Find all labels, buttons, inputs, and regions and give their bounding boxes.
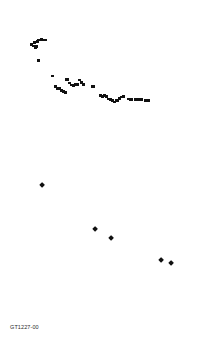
data-point-marker xyxy=(140,98,143,101)
scientific-figure: (a) Immobile element ratio cm 0 1 2 3 4 … xyxy=(0,0,217,352)
panel-a-chart: (a) Immobile element ratio cm 0 1 2 3 4 … xyxy=(0,0,217,160)
data-point-marker xyxy=(35,45,38,48)
data-point-marker xyxy=(168,260,174,266)
panel-a-data-points xyxy=(0,0,217,160)
figure-code: GT1227-00 xyxy=(10,324,39,330)
data-point-marker xyxy=(65,78,68,81)
data-point-marker xyxy=(44,39,47,42)
data-point-marker xyxy=(158,257,164,263)
data-point-marker xyxy=(147,99,150,102)
data-point-marker xyxy=(37,59,40,62)
data-point-marker xyxy=(76,83,79,86)
data-point-marker xyxy=(108,235,114,241)
data-point-marker xyxy=(91,85,94,88)
data-point-marker xyxy=(82,83,85,86)
data-point-marker xyxy=(39,182,45,188)
data-point-marker xyxy=(64,91,67,94)
data-point-marker xyxy=(122,95,125,98)
data-point-marker xyxy=(92,226,98,232)
data-point-marker xyxy=(51,75,54,78)
data-point-marker xyxy=(129,98,132,101)
